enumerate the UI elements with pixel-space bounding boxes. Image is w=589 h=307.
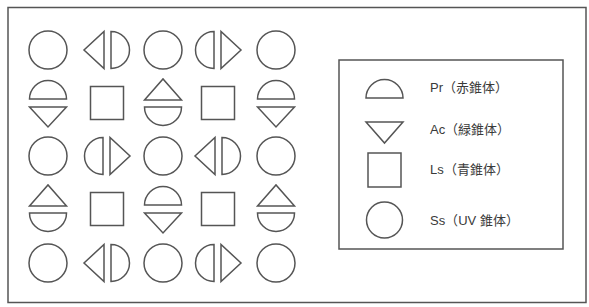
legend-label-ls: Ls（青錐体） xyxy=(430,162,509,178)
pr-cone-semicircle-icon xyxy=(222,138,241,175)
mosaic-grid xyxy=(29,31,295,282)
ac-cone-triangle-icon xyxy=(30,185,67,206)
ls-cone-square-icon xyxy=(202,87,235,120)
ss-cone-circle-icon xyxy=(144,31,182,69)
pr-cone-semicircle-icon xyxy=(30,81,67,100)
ac-cone-triangle-icon xyxy=(84,32,104,69)
ss-cone-circle-icon xyxy=(257,244,295,282)
ss-cone-circle-icon xyxy=(29,137,67,175)
ac-cone-triangle-icon xyxy=(258,185,295,206)
outer-frame xyxy=(8,8,586,303)
cone-mosaic-diagram xyxy=(0,0,589,307)
ac-cone-triangle-icon xyxy=(195,138,215,175)
ls-cone-square-icon xyxy=(202,193,235,226)
ac-cone-triangle-icon xyxy=(221,32,241,69)
legend-circle-icon xyxy=(367,202,403,238)
legend-label-ss: Ss（UV 錐体） xyxy=(430,213,519,229)
legend-inverted-triangle-icon xyxy=(366,122,403,143)
ss-cone-circle-icon xyxy=(29,31,67,69)
ac-cone-triangle-icon xyxy=(221,245,241,282)
pr-cone-semicircle-icon xyxy=(111,245,130,282)
ac-cone-triangle-icon xyxy=(145,213,182,233)
pr-cone-semicircle-icon xyxy=(145,107,182,126)
ac-cone-triangle-icon xyxy=(145,79,182,100)
legend-label-ac: Ac（緑錐体） xyxy=(430,122,510,138)
legend-symbols xyxy=(366,80,403,239)
pr-cone-semicircle-icon xyxy=(30,213,67,232)
legend-square-icon xyxy=(368,153,401,187)
ss-cone-circle-icon xyxy=(257,31,295,69)
pr-cone-semicircle-icon xyxy=(111,32,130,69)
pr-cone-semicircle-icon xyxy=(258,213,295,232)
pr-cone-semicircle-icon xyxy=(85,138,103,175)
ac-cone-triangle-icon xyxy=(84,245,104,282)
pr-cone-semicircle-icon xyxy=(258,81,295,100)
pr-cone-semicircle-icon xyxy=(196,245,215,282)
ac-cone-triangle-icon xyxy=(30,107,67,127)
legend-label-pr: Pr（赤錐体） xyxy=(430,80,508,96)
ss-cone-circle-icon xyxy=(144,137,182,175)
pr-cone-semicircle-icon xyxy=(196,32,215,69)
ac-cone-triangle-icon xyxy=(110,138,130,175)
ss-cone-circle-icon xyxy=(257,137,295,175)
ss-cone-circle-icon xyxy=(144,244,182,282)
ss-cone-circle-icon xyxy=(29,244,67,282)
legend-semicircle-icon xyxy=(366,80,403,99)
pr-cone-semicircle-icon xyxy=(145,187,182,206)
ac-cone-triangle-icon xyxy=(258,107,295,127)
ls-cone-square-icon xyxy=(91,193,124,226)
ls-cone-square-icon xyxy=(91,87,124,120)
